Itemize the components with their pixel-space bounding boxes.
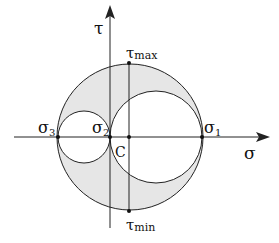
point-center (127, 135, 131, 139)
sigma-axis-label: σ (244, 143, 256, 163)
label-tau-min: τmin (126, 216, 155, 234)
point-sigma3 (56, 135, 60, 139)
label-sigma3: σ3 (38, 118, 55, 138)
label-sigma1: σ1 (204, 118, 221, 138)
tau-axis-label: τ (94, 18, 103, 38)
label-tau-max: τmax (126, 44, 158, 62)
diagram-canvas: τ σ σ3 σ2 σ1 C τmax τmin (0, 0, 279, 243)
label-center: C (115, 144, 126, 160)
mohr-circle-diagram: τ σ σ3 σ2 σ1 C τmax τmin (0, 0, 279, 243)
point-tau-min (127, 209, 131, 213)
